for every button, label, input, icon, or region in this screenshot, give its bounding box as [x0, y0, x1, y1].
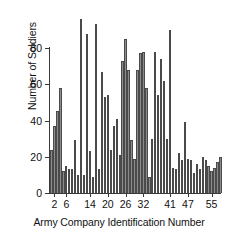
bar — [196, 164, 198, 193]
y-tick-mark — [45, 84, 49, 85]
bar — [193, 173, 195, 193]
x-tick-mark — [54, 193, 55, 197]
bar — [119, 155, 121, 193]
bar — [53, 126, 55, 193]
y-tick-mark — [45, 193, 49, 194]
bar — [68, 169, 70, 193]
bar — [175, 169, 177, 193]
bar — [80, 19, 82, 193]
bar — [77, 175, 79, 193]
bar — [205, 160, 207, 193]
x-tick-label: 55 — [200, 199, 224, 210]
y-tick-label: 40 — [2, 116, 42, 127]
x-tick-label: 6 — [54, 199, 78, 210]
bar — [187, 159, 189, 193]
bar — [62, 171, 64, 193]
bar — [190, 160, 192, 193]
bar-chart: Number of Soldiers 020406080 26142026324… — [0, 0, 238, 239]
x-axis-line — [49, 193, 221, 194]
x-tick-mark — [212, 193, 213, 197]
bar — [130, 140, 132, 193]
x-tick-mark — [90, 193, 91, 197]
bar — [172, 168, 174, 193]
x-tick-mark — [108, 193, 109, 197]
x-tick-mark — [66, 193, 67, 197]
bar — [142, 52, 144, 193]
bar — [207, 166, 209, 193]
x-tick-mark — [170, 193, 171, 197]
bar — [139, 53, 141, 193]
bar — [184, 122, 186, 193]
bar — [154, 52, 156, 193]
bar — [65, 166, 67, 193]
bar — [104, 97, 106, 193]
bar — [56, 111, 58, 193]
bar — [107, 95, 109, 193]
x-tick-mark — [126, 193, 127, 197]
y-tick-label: 60 — [2, 79, 42, 90]
x-tick-mark — [143, 193, 144, 197]
y-tick-label: 80 — [2, 43, 42, 54]
bar — [50, 150, 52, 194]
x-tick-label: 32 — [131, 199, 155, 210]
bar — [101, 72, 103, 193]
bar — [86, 34, 88, 194]
bar — [136, 70, 138, 193]
bar — [133, 159, 135, 193]
bar — [178, 153, 180, 193]
x-axis-title: Army Company Identification Number — [0, 216, 238, 228]
bar — [113, 126, 115, 193]
bar — [210, 171, 212, 193]
bar — [169, 30, 171, 193]
plot-area — [50, 10, 222, 193]
bar — [213, 168, 215, 193]
bar — [59, 88, 61, 193]
y-tick-mark — [45, 157, 49, 158]
bar — [92, 177, 94, 193]
bar — [98, 169, 100, 193]
bar — [116, 119, 118, 193]
bar — [148, 177, 150, 193]
bar — [110, 150, 112, 194]
bar — [202, 157, 204, 193]
bar — [145, 88, 147, 193]
bar — [157, 95, 159, 193]
bar — [124, 39, 126, 193]
bar — [181, 160, 183, 193]
y-tick-mark — [45, 121, 49, 122]
bar — [199, 169, 201, 193]
x-tick-mark — [188, 193, 189, 197]
y-tick-label: 0 — [2, 188, 42, 199]
bar — [74, 140, 76, 193]
bar — [127, 70, 129, 193]
bar — [151, 139, 153, 193]
bar — [160, 59, 162, 193]
y-tick-mark — [45, 48, 49, 49]
bar — [216, 162, 218, 193]
bar — [163, 81, 165, 193]
bar — [83, 175, 85, 193]
bar — [219, 157, 221, 193]
bar — [121, 61, 123, 193]
x-tick-label: 47 — [176, 199, 200, 210]
bar — [95, 24, 97, 193]
bar — [71, 169, 73, 193]
bar — [166, 139, 168, 193]
bar — [89, 151, 91, 193]
y-tick-label: 20 — [2, 152, 42, 163]
